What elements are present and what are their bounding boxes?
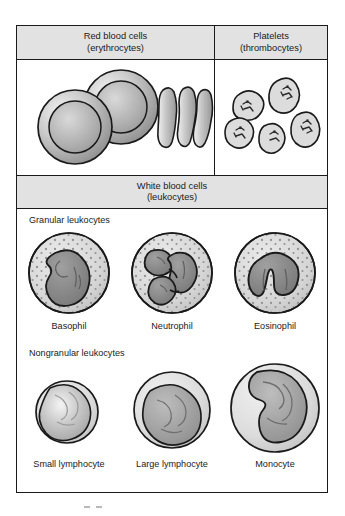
- row-red-cells-platelets: Red blood cells (erythrocytes): [17, 26, 327, 176]
- column-platelets: Platelets (thrombocytes): [215, 26, 327, 175]
- platelets-title: Platelets: [240, 31, 302, 42]
- erythrocyte-edge-views: [158, 87, 213, 147]
- column-red-blood-cells: Red blood cells (erythrocytes): [17, 26, 215, 175]
- label-basophil: Basophil: [17, 321, 121, 331]
- cell-large-lymphocyte: [134, 372, 210, 448]
- label-small-lymphocyte: Small lymphocyte: [17, 459, 121, 469]
- header-platelets: Platelets (thrombocytes): [215, 26, 327, 60]
- platelets-illustration: [215, 60, 327, 175]
- erythrocyte-disc-front: [38, 90, 112, 164]
- agranulocyte-drawings: [17, 360, 326, 456]
- platelets-subtitle: (thrombocytes): [240, 43, 302, 54]
- header-white-blood-cells: White blood cells (leukocytes): [17, 176, 327, 209]
- scan-artifact: [84, 506, 90, 508]
- cell-small-lymphocyte: [36, 381, 98, 443]
- blood-cells-figure: Red blood cells (erythrocytes): [16, 25, 328, 493]
- label-neutrophil: Neutrophil: [120, 321, 224, 331]
- platelet-shapes: [225, 78, 320, 153]
- cell-neutrophil: [132, 233, 212, 313]
- white-blood-cells-subtitle: (leukocytes): [137, 192, 207, 203]
- cell-basophil: [29, 233, 109, 313]
- scan-artifact: [96, 506, 102, 508]
- white-blood-cells-title: White blood cells: [137, 181, 207, 192]
- red-blood-cells-title: Red blood cells: [84, 31, 148, 42]
- label-monocyte: Monocyte: [223, 459, 327, 469]
- platelet-drawing: [215, 60, 327, 175]
- label-eosinophil: Eosinophil: [223, 321, 327, 331]
- group-granular-leukocytes: Granular leukocytes: [17, 209, 327, 342]
- red-blood-cells-illustration: [17, 60, 214, 175]
- cell-eosinophil: [235, 233, 315, 313]
- rbc-drawing: [17, 60, 214, 175]
- cell-monocyte: [231, 364, 319, 452]
- header-red-blood-cells: Red blood cells (erythrocytes): [17, 26, 214, 60]
- granulocyte-drawings: [17, 229, 326, 317]
- label-large-lymphocyte: Large lymphocyte: [120, 459, 224, 469]
- nongranular-leukocytes-label: Nongranular leukocytes: [29, 348, 125, 358]
- granular-leukocytes-label: Granular leukocytes: [29, 215, 110, 225]
- group-nongranular-leukocytes: Nongranular leukocytes: [17, 342, 327, 487]
- red-blood-cells-subtitle: (erythrocytes): [84, 43, 148, 54]
